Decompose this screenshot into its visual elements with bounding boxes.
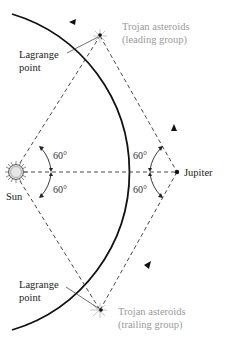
- lagrange-top-line2: point: [19, 62, 41, 73]
- orbit-arrow-top-icon: [69, 19, 76, 25]
- angle-label-sun-lower: 60°: [53, 184, 67, 195]
- angle-label-jupiter-lower: 60°: [133, 184, 147, 195]
- lagrange-diagram: 60° 60° 60° 60° Sun Jupiter Trojan aster…: [0, 0, 228, 346]
- sun-label: Sun: [6, 191, 23, 202]
- sun-l5-line: [20, 181, 100, 310]
- orbit-arrow-right-icon: [171, 124, 177, 131]
- angle-label-sun-upper: 60°: [53, 150, 67, 161]
- trailing-group-line2: (trailing group): [118, 319, 183, 331]
- leading-asteroid-cluster-icon: [93, 29, 107, 43]
- lagrange-top-leader: [67, 37, 98, 53]
- lagrange-bottom-line1: Lagrange: [19, 279, 59, 290]
- lagrange-bottom-line2: point: [19, 292, 41, 303]
- jupiter-label: Jupiter: [184, 167, 213, 178]
- lagrange-top-line1: Lagrange: [19, 49, 59, 60]
- angle-label-jupiter-upper: 60°: [133, 150, 147, 161]
- leading-group-line1: Trojan asteroids: [122, 21, 190, 32]
- trailing-group-line1: Trojan asteroids: [118, 306, 186, 317]
- orbit-arrow-bottom-icon: [144, 261, 151, 269]
- jupiter-icon: [175, 170, 179, 174]
- sun-icon: [5, 161, 27, 183]
- leading-group-line2: (leading group): [122, 34, 188, 46]
- trailing-asteroid-cluster-icon: [90, 303, 107, 318]
